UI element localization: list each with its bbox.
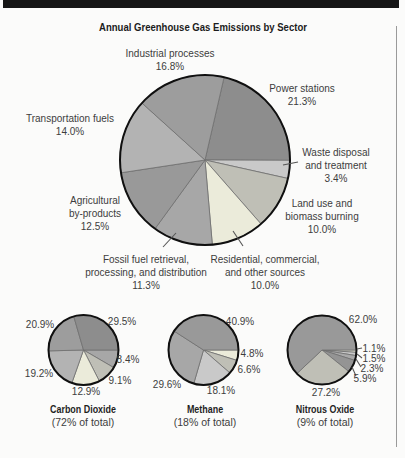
caption-subtitle-methane: (18% of total) bbox=[174, 416, 236, 429]
label-fossil-fuel-retrieval: Fossil fuel retrieval,processing, and di… bbox=[85, 253, 207, 292]
label-transportation-fuels: Transportation fuels14.0% bbox=[26, 112, 114, 138]
label-9.1: 9.1% bbox=[109, 374, 132, 387]
leader-line bbox=[357, 348, 362, 349]
nitrous-oxide-pie bbox=[288, 316, 363, 385]
label-waste-disposal: Waste disposaland treatment3.4% bbox=[302, 146, 369, 185]
caption-methane: Methane bbox=[187, 403, 223, 416]
caption-subtitle-nitrous-oxide: (9% of total) bbox=[297, 416, 354, 429]
label-40.9: 40.9% bbox=[226, 315, 254, 328]
caption-carbon-dioxide: Carbon Dioxide bbox=[50, 403, 116, 416]
label-62.0: 62.0% bbox=[349, 313, 377, 326]
label-industrial-processes: Industrial processes16.8% bbox=[126, 47, 215, 73]
label-residential-commercial: Residential, commercial,and other source… bbox=[211, 253, 320, 292]
caption-nitrous-oxide: Nitrous Oxide bbox=[296, 403, 355, 416]
figure-page: Annual Greenhouse Gas Emissions by Secto… bbox=[0, 0, 405, 458]
label-8.4: 8.4% bbox=[117, 353, 140, 366]
caption-subtitle-carbon-dioxide: (72% of total) bbox=[52, 416, 114, 429]
label-12.9: 12.9% bbox=[72, 385, 100, 398]
label-power-stations: Power stations21.3% bbox=[269, 82, 335, 108]
label-27.2: 27.2% bbox=[312, 386, 340, 399]
label-4.8: 4.8% bbox=[241, 347, 264, 360]
label-20.9: 20.9% bbox=[26, 318, 54, 331]
label-5.9: 5.9% bbox=[354, 372, 377, 385]
leader-line bbox=[357, 354, 362, 358]
label-agricultural: Agriculturalby-products12.5% bbox=[69, 194, 121, 233]
label-land-use-and: Land use andbiomass burning10.0% bbox=[285, 197, 358, 236]
label-19.2: 19.2% bbox=[25, 367, 53, 380]
label-29.6: 29.6% bbox=[153, 378, 181, 391]
label-6.6: 6.6% bbox=[238, 363, 261, 376]
label-18.1: 18.1% bbox=[207, 384, 235, 397]
label-29.5: 29.5% bbox=[108, 315, 136, 328]
